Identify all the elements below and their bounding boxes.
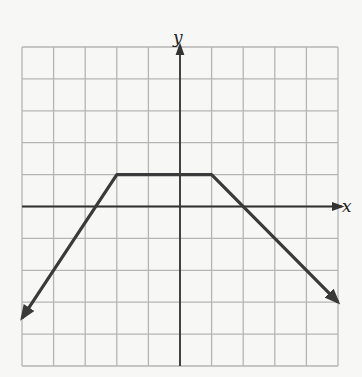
chart: x y xyxy=(0,0,362,377)
axes xyxy=(22,45,342,366)
x-axis-label: x xyxy=(342,196,352,216)
y-axis-label: y xyxy=(172,27,183,47)
